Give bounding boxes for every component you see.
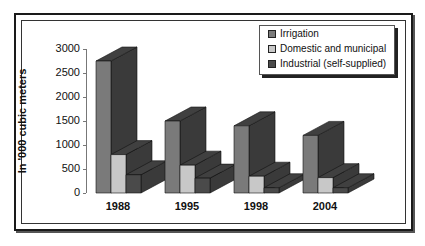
bar-front-domestic bbox=[180, 165, 195, 193]
legend-label: Irrigation bbox=[280, 28, 319, 39]
legend: Irrigation Domestic and municipal Indust… bbox=[259, 25, 395, 75]
legend-item-domestic: Domestic and municipal bbox=[260, 41, 394, 56]
x-tick-label: 2004 bbox=[305, 200, 345, 212]
bar-front-industrial bbox=[333, 188, 348, 193]
bar-front-irrigation bbox=[234, 126, 249, 193]
bar-front-irrigation bbox=[96, 61, 111, 193]
bar-front-industrial bbox=[195, 178, 210, 193]
legend-label: Domestic and municipal bbox=[280, 43, 386, 54]
bar-front-domestic bbox=[111, 155, 126, 193]
legend-swatch-domestic bbox=[268, 45, 276, 53]
bar-front-irrigation bbox=[165, 121, 180, 193]
legend-item-irrigation: Irrigation bbox=[260, 26, 394, 41]
legend-label: Industrial (self-supplied) bbox=[280, 58, 386, 69]
legend-swatch-industrial bbox=[268, 60, 276, 68]
legend-item-industrial: Industrial (self-supplied) bbox=[260, 56, 394, 71]
bar-front-irrigation bbox=[303, 135, 318, 193]
x-tick-label: 1998 bbox=[236, 200, 276, 212]
bar-front-domestic bbox=[249, 176, 264, 193]
legend-swatch-irrigation bbox=[268, 30, 276, 38]
x-tick-label: 1988 bbox=[98, 200, 138, 212]
x-tick-label: 1995 bbox=[167, 200, 207, 212]
bar-front-domestic bbox=[318, 178, 333, 193]
bar-front-industrial bbox=[264, 188, 279, 193]
bar-front-industrial bbox=[126, 175, 141, 193]
